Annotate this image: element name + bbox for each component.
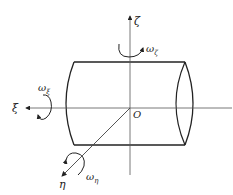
omega-xi-label: ωξ <box>38 82 51 96</box>
cylinder-right-end-outer <box>185 62 193 145</box>
zeta-axis-label: ζ <box>134 15 141 28</box>
omega-eta-rotation-icon <box>66 153 84 175</box>
cylinder <box>66 62 193 145</box>
cylinder-right-end-inner <box>176 62 185 145</box>
eta-axis-label: η <box>59 178 66 191</box>
xi-axis-label: ξ <box>12 102 19 115</box>
origin-label: O <box>133 109 141 120</box>
cylinder-rotation-diagram: ζ ωζ ξ ωξ O η ωη <box>0 0 233 195</box>
omega-zeta-rotation-icon <box>119 44 143 57</box>
omega-eta-label: ωη <box>86 171 99 185</box>
omega-zeta-label: ωζ <box>146 43 159 57</box>
cylinder-left-end <box>66 62 74 145</box>
omega-xi-rotation-icon <box>38 95 51 120</box>
